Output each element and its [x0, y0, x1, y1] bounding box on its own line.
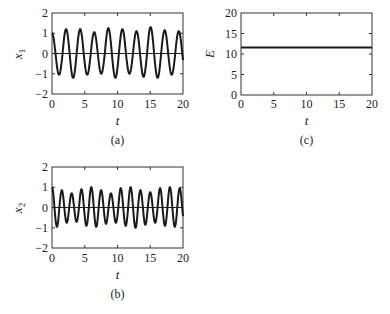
xtick-label: 5 [82, 251, 88, 265]
panel-a-caption: (a) [111, 133, 124, 147]
ytick-label: 2 [42, 160, 48, 174]
figure: 2 1 0 −1 −2 0 5 10 15 20 t x1 (a) 20 [0, 0, 390, 314]
ytick-label: 1 [42, 26, 48, 40]
xtick-label: 20 [366, 97, 378, 111]
panel-a-xlabel: t [116, 113, 120, 128]
panel-c-xticklabels: 0 5 10 15 20 [238, 97, 378, 111]
panel-c-xlabel: t [305, 113, 309, 128]
svg-text:x1: x1 [10, 49, 27, 60]
panel-c-yticklabels: 20 15 10 5 0 [225, 6, 237, 102]
ylabel-subscript: 1 [17, 49, 27, 54]
ytick-label: −2 [35, 87, 48, 101]
panel-c-axes-box [241, 13, 372, 95]
panel-b-yticklabels: 2 1 0 −1 −2 [35, 160, 48, 255]
xtick-label: 5 [82, 97, 88, 111]
ytick-label: 0 [231, 88, 237, 102]
panel-b-xlabel: t [116, 267, 120, 282]
xtick-label: 0 [238, 97, 244, 111]
panel-b-caption: (b) [111, 287, 125, 301]
ytick-label: 2 [42, 6, 48, 20]
panel-a-yticklabels: 2 1 0 −1 −2 [35, 6, 48, 101]
panel-a-ylabel: x1 [10, 49, 27, 60]
panel-c-caption: (c) [300, 133, 313, 147]
xtick-label: 15 [333, 97, 345, 111]
svg-text:x2: x2 [10, 203, 27, 214]
ytick-label: 5 [231, 68, 237, 82]
xtick-label: 10 [301, 97, 313, 111]
xtick-label: 5 [271, 97, 277, 111]
ytick-label: 15 [225, 27, 237, 41]
ytick-label: −1 [35, 67, 48, 81]
xtick-label: 20 [177, 251, 189, 265]
panel-a-xticklabels: 0 5 10 15 20 [49, 97, 189, 111]
xtick-label: 10 [112, 251, 124, 265]
svg-text:E: E [202, 50, 217, 59]
ytick-label: 0 [42, 47, 48, 61]
xtick-label: 10 [112, 97, 124, 111]
panel-a-x1-curve [52, 27, 183, 78]
xtick-label: 15 [144, 251, 156, 265]
ytick-label: −2 [35, 241, 48, 255]
ytick-label: 1 [42, 180, 48, 194]
panel-c-ylabel: E [202, 50, 217, 59]
panel-b-xticklabels: 0 5 10 15 20 [49, 251, 189, 265]
ytick-label: 20 [225, 6, 237, 20]
panel-b: 2 1 0 −1 −2 0 5 10 15 20 t x2 (b) [10, 160, 189, 301]
ylabel-subscript: 2 [17, 203, 27, 208]
xtick-label: 15 [144, 97, 156, 111]
xtick-label: 20 [177, 97, 189, 111]
panel-b-ylabel: x2 [10, 203, 27, 214]
xtick-label: 0 [49, 97, 55, 111]
panel-a: 2 1 0 −1 −2 0 5 10 15 20 t x1 (a) [10, 6, 189, 147]
xtick-label: 0 [49, 251, 55, 265]
ytick-label: 0 [42, 201, 48, 215]
panel-c-ticks [241, 13, 372, 95]
panel-c: 20 15 10 5 0 0 5 10 15 20 t E (c) [202, 6, 378, 147]
ytick-label: −1 [35, 221, 48, 235]
ytick-label: 10 [225, 47, 237, 61]
